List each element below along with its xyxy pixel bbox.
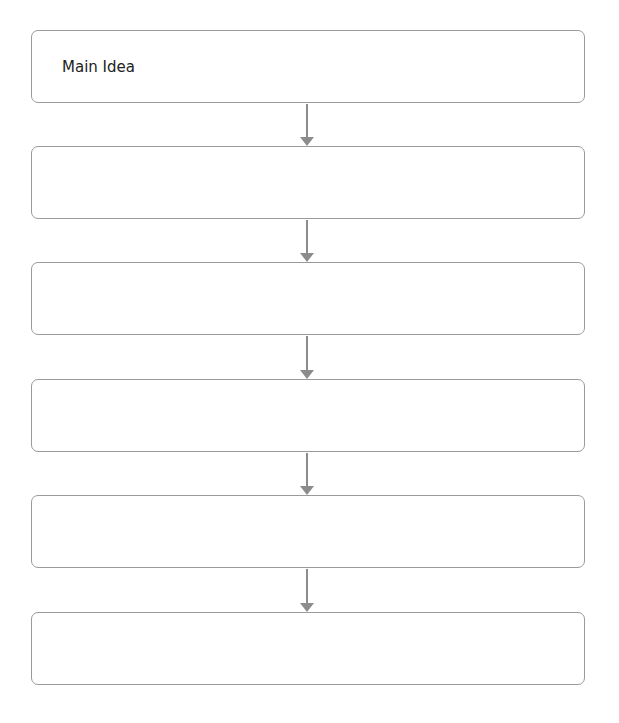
arrow-line <box>306 569 308 604</box>
arrow-line <box>306 220 308 254</box>
flow-box-3[interactable] <box>31 262 585 335</box>
arrow-down-icon <box>300 253 314 262</box>
arrow-down-icon <box>300 137 314 146</box>
flow-box-4[interactable] <box>31 379 585 452</box>
arrow-line <box>306 336 308 371</box>
arrow-line <box>306 453 308 487</box>
arrow-line <box>306 104 308 138</box>
box-label: Main Idea <box>62 58 135 76</box>
flow-box-5[interactable] <box>31 495 585 568</box>
flow-box-2[interactable] <box>31 146 585 219</box>
arrow-down-icon <box>300 370 314 379</box>
flow-box-6[interactable] <box>31 612 585 685</box>
arrow-down-icon <box>300 486 314 495</box>
cutoff-header-text <box>20 0 580 4</box>
flow-box-main-idea[interactable]: Main Idea <box>31 30 585 103</box>
arrow-down-icon <box>300 603 314 612</box>
